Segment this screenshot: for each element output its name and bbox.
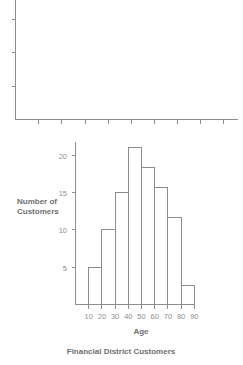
top-empty-chart — [0, 0, 243, 125]
x-tick-label-10: 10 — [85, 312, 93, 321]
y-tick-label-15: 15 — [59, 189, 67, 198]
y-tick-label-20: 20 — [59, 152, 67, 161]
histogram-x-ticks — [89, 305, 195, 310]
x-tick-label-30: 30 — [111, 312, 119, 321]
histogram-chart: 20 15 10 5 10 20 30 40 50 60 — [0, 128, 243, 365]
y-tick-label-5: 5 — [63, 264, 67, 273]
histogram-bar-60-70 — [155, 187, 168, 304]
y-tick-label-10: 10 — [59, 226, 67, 235]
histogram-bar-20-30 — [102, 230, 115, 305]
histogram-bar-10-20 — [89, 267, 102, 304]
x-tick-label-80: 80 — [177, 312, 185, 321]
histogram-bar-40-50 — [128, 148, 141, 305]
histogram-bars — [89, 148, 195, 305]
x-tick-label-90: 90 — [190, 312, 198, 321]
top-chart-y-ticks — [12, 20, 16, 87]
histogram-bar-80-90 — [181, 286, 194, 305]
histogram-bar-50-60 — [142, 168, 155, 305]
x-tick-label-20: 20 — [98, 312, 106, 321]
chart-caption: Financial District Customers — [67, 347, 176, 356]
x-tick-label-70: 70 — [164, 312, 172, 321]
histogram-bar-30-40 — [115, 193, 128, 305]
histogram-y-ticks — [72, 156, 76, 268]
x-axis-title: Age — [133, 327, 149, 336]
y-axis-label-line2: Customers — [17, 207, 59, 216]
x-tick-label-50: 50 — [137, 312, 145, 321]
y-axis-label-line1: Number of — [17, 197, 57, 206]
histogram-bar-70-80 — [168, 217, 181, 304]
top-chart-x-ticks — [39, 120, 224, 125]
x-tick-label-60: 60 — [151, 312, 159, 321]
x-tick-label-40: 40 — [124, 312, 132, 321]
